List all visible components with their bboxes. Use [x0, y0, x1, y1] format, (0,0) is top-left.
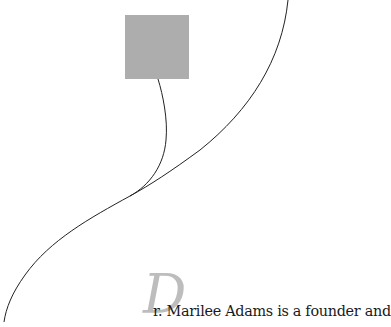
short-curve: [130, 79, 166, 196]
article-first-line: r. Marilee Adams is a founder and: [153, 302, 391, 320]
